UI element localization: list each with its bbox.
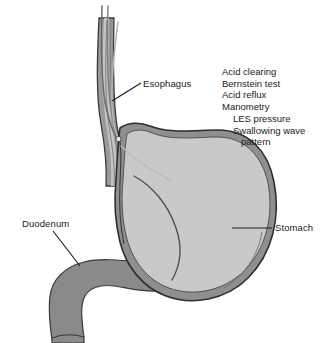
test-list-item: Acid clearing [222, 66, 330, 78]
test-list-item: Manometry [222, 101, 330, 113]
test-list-item: Bernstein test [222, 78, 330, 90]
leader-line-esophagus [112, 83, 141, 101]
test-list-item: pattern [222, 136, 330, 148]
label-stomach: Stomach [275, 222, 313, 234]
leader-line-duodenum [53, 231, 80, 266]
catheter-tip-sensor [116, 136, 121, 141]
test-list-item: Swallowing wave [222, 125, 330, 137]
anatomy-diagram [0, 0, 331, 343]
label-esophagus: Esophagus [143, 78, 191, 90]
test-list: Acid clearingBernstein testAcid refluxMa… [222, 66, 330, 148]
stomach-structure [115, 123, 276, 300]
test-list-item: Acid reflux [222, 89, 330, 101]
test-list-item: LES pressure [222, 113, 330, 125]
label-duodenum: Duodenum [22, 218, 69, 230]
